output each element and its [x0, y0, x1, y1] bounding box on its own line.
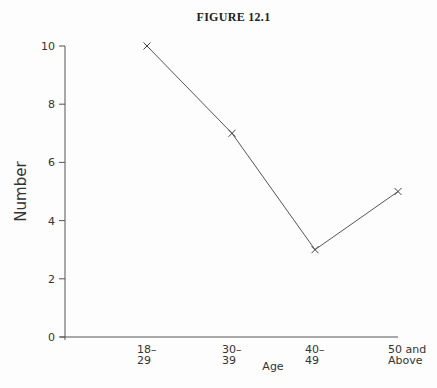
- x-marker-icon: [312, 246, 319, 253]
- data-line: [147, 46, 398, 250]
- x-tick-label: 49: [305, 354, 319, 367]
- y-tick-label: 0: [48, 331, 55, 344]
- y-tick-label: 4: [48, 215, 55, 228]
- x-marker-icon: [395, 188, 402, 195]
- y-tick-label: 8: [48, 98, 55, 111]
- x-marker-icon: [144, 43, 151, 50]
- y-tick-label: 2: [48, 273, 55, 286]
- x-tick-label: Above: [388, 354, 423, 367]
- y-axis-label: Number: [12, 161, 30, 222]
- x-marker-icon: [229, 130, 236, 137]
- x-axis-label: Age: [262, 360, 284, 373]
- x-tick-label: 39: [222, 354, 236, 367]
- y-tick-label: 6: [48, 156, 55, 169]
- line-chart: 0246810Number18–2930–3940–4950 andAboveA…: [0, 0, 437, 388]
- y-tick-label: 10: [41, 40, 55, 53]
- x-tick-label: 29: [137, 354, 151, 367]
